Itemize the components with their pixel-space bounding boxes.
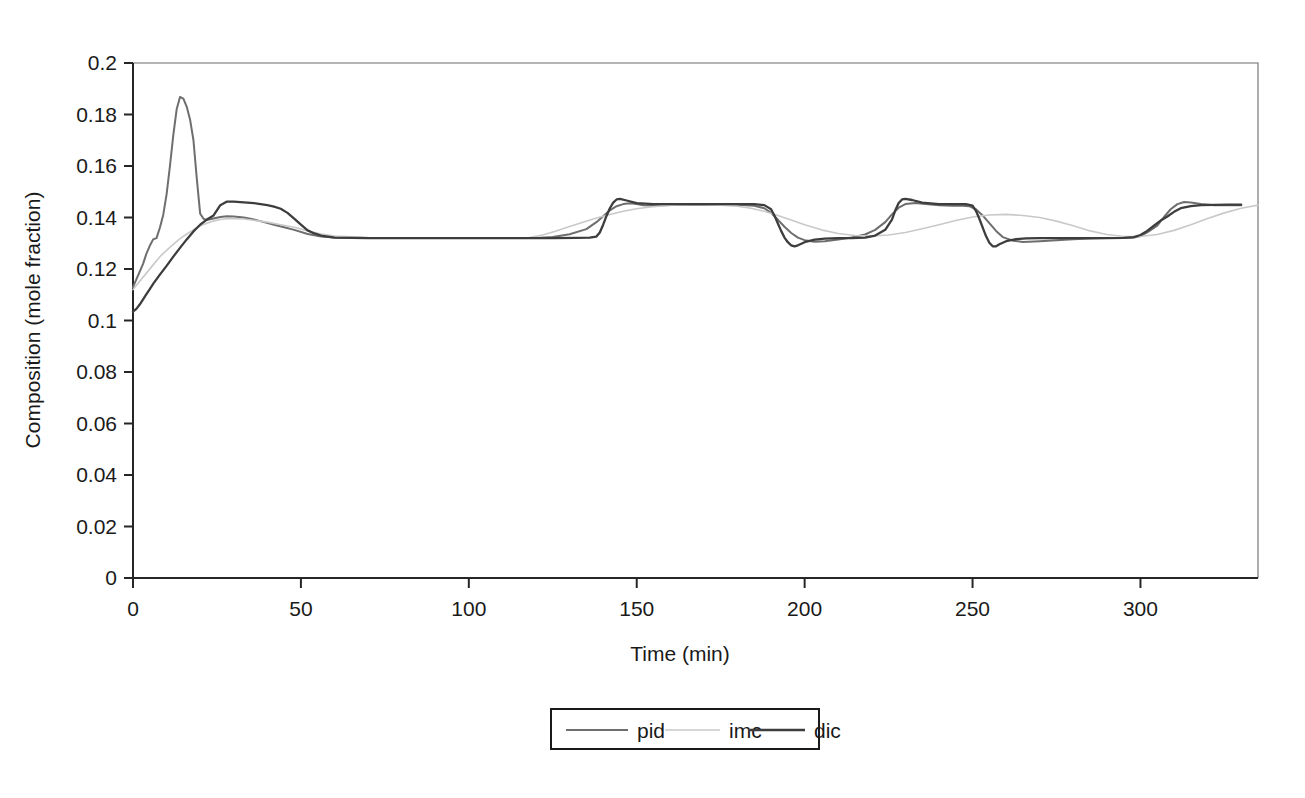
y-tick-label: 0.2 [88,51,117,74]
x-tick-label: 300 [1123,597,1158,620]
y-tick-label: 0.14 [76,206,117,229]
y-tick-label: 0.06 [76,412,117,435]
x-axis-ticks: 050100150200250300 [127,578,1158,620]
chart-legend: pidimcdic [551,709,841,749]
x-tick-label: 100 [451,597,486,620]
legend-label-dic: dic [814,719,841,742]
plot-border [133,63,1258,578]
x-axis-title: Time (min) [630,642,730,665]
x-tick-label: 200 [787,597,822,620]
series-line-imc [133,205,1258,290]
legend-label-pid: pid [637,719,665,742]
y-tick-label: 0.1 [88,309,117,332]
y-axis-ticks: 00.020.040.060.080.10.120.140.160.180.2 [76,51,133,589]
series-group [133,97,1258,312]
chart-figure: 00.020.040.060.080.10.120.140.160.180.2 … [0,0,1305,798]
x-tick-label: 0 [127,597,139,620]
y-tick-label: 0.12 [76,257,117,280]
y-tick-label: 0.18 [76,103,117,126]
y-tick-label: 0.16 [76,154,117,177]
composition-vs-time-chart: 00.020.040.060.080.10.120.140.160.180.2 … [0,0,1305,798]
plot-frame [133,63,1258,578]
x-tick-label: 50 [289,597,312,620]
y-tick-label: 0 [105,566,117,589]
series-line-pid [133,97,1241,287]
x-tick-label: 150 [619,597,654,620]
y-tick-label: 0.02 [76,515,117,538]
x-tick-label: 250 [955,597,990,620]
y-tick-label: 0.08 [76,360,117,383]
y-tick-label: 0.04 [76,463,117,486]
series-line-dic [133,199,1241,312]
y-axis-title: Composition (mole fraction) [21,192,44,449]
